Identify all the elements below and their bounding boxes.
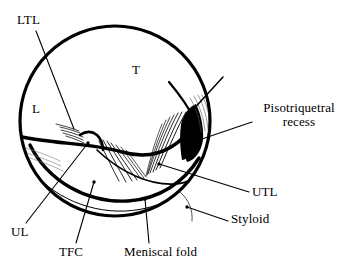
leader-dot-tfc <box>92 180 95 183</box>
label-styloid: Styloid <box>231 212 269 226</box>
label-lunate: L <box>32 102 40 116</box>
label-ltl: LTL <box>17 13 40 27</box>
leader-dot-styloid <box>185 205 188 208</box>
label-triquetrum: T <box>132 63 140 77</box>
label-utl: UTL <box>252 185 278 199</box>
leader-dot-utl <box>157 162 160 165</box>
label-pisotriquetral-recess-line1: Pisotriquetral <box>254 101 344 115</box>
leader-dot-ul <box>86 141 89 144</box>
label-ul: UL <box>11 225 29 239</box>
figure-line-art <box>0 0 345 273</box>
label-meniscal-fold: Meniscal fold <box>124 245 197 259</box>
leader-dot-meniscal-fold <box>143 197 146 200</box>
label-pisotriquetral-recess: Pisotriquetral recess <box>254 101 344 129</box>
label-pisotriquetral-recess-line2: recess <box>254 115 344 129</box>
leader-styloid <box>187 207 228 221</box>
wrist-arthroscopy-figure: LTL T L Pisotriquetral recess UTL Styloi… <box>0 0 345 273</box>
label-tfc: TFC <box>59 245 83 259</box>
